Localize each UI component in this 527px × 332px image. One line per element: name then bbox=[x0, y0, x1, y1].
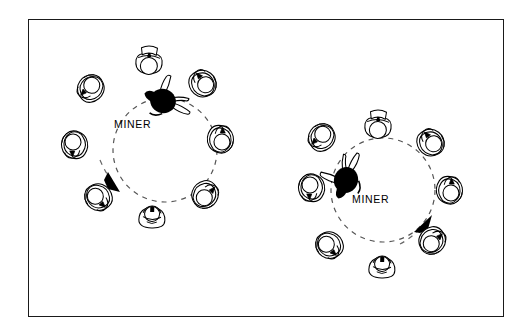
figure-r5 bbox=[369, 256, 396, 279]
figure-l3 bbox=[207, 125, 234, 154]
figure-r2 bbox=[412, 124, 450, 162]
figure-l2 bbox=[184, 65, 222, 103]
figure-l8 bbox=[72, 69, 110, 107]
left-miner-label: MINER bbox=[114, 118, 151, 130]
figure-r8 bbox=[303, 118, 341, 156]
figure-l4 bbox=[186, 176, 224, 214]
diagram-artwork bbox=[0, 0, 527, 332]
figure-r6 bbox=[310, 226, 348, 264]
diagram-page: MINER MINER bbox=[0, 0, 527, 332]
figure-r7 bbox=[298, 173, 325, 202]
figure-l7 bbox=[61, 130, 88, 159]
figure-r1 bbox=[364, 110, 391, 139]
figure-l5 bbox=[139, 206, 166, 229]
left-formation bbox=[61, 46, 234, 229]
figure-r3 bbox=[436, 176, 463, 205]
figure-l1 bbox=[135, 46, 162, 75]
right-miner-label: MINER bbox=[352, 193, 389, 205]
